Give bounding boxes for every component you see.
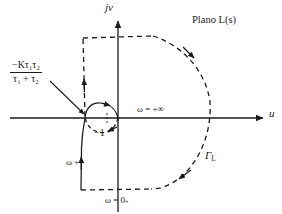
omega-zero-plus-sub: + bbox=[125, 199, 128, 205]
gain-expression-numerator: −Kτ₁τ₂ bbox=[10, 60, 42, 73]
u-axis-label: u bbox=[269, 108, 275, 120]
jv-axis-label: jv bbox=[105, 2, 113, 14]
fraction-pointer-line bbox=[50, 81, 84, 114]
gamma-subscript: L bbox=[211, 154, 216, 163]
plane-title-text: Plano L(s) bbox=[192, 14, 236, 25]
left-vertical-dashed-segment bbox=[83, 39, 85, 116]
axis-group bbox=[10, 21, 263, 212]
contour-solid-group bbox=[81, 103, 118, 190]
plane-title-label: Plano L(s) bbox=[192, 14, 236, 25]
critical-point-label: −1 bbox=[94, 128, 105, 139]
gain-expression-label: −Kτ₁τ₂ τ₁ + τ₂ bbox=[10, 60, 42, 84]
large-arc-upper-direction-arrow bbox=[183, 47, 194, 58]
omega-plus-label: ω + bbox=[66, 158, 79, 167]
nyquist-figure: jv u Plano L(s) ΓL ω = +∞ ω = 0+ ω + −1 … bbox=[0, 0, 282, 214]
upper-lobe-solid-segment bbox=[85, 103, 118, 118]
lower-lobe-direction-arrow bbox=[108, 127, 117, 131]
omega-zero-plus-label: ω = 0+ bbox=[105, 196, 128, 206]
omega-zero-plus-main: ω = 0 bbox=[105, 195, 125, 205]
bottom-horizontal-dashed-segment bbox=[81, 189, 151, 190]
omega-infinity-label: ω = +∞ bbox=[137, 105, 164, 114]
large-arc-lower-direction-arrow bbox=[179, 170, 191, 179]
gain-expression-denominator: τ₁ + τ₂ bbox=[10, 73, 42, 85]
left-descending-solid-segment bbox=[81, 118, 85, 190]
contour-gamma-label: ΓL bbox=[205, 150, 216, 162]
